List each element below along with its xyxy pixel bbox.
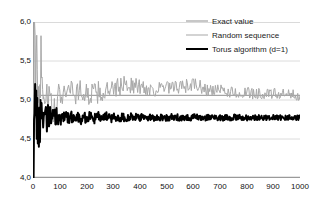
y-axis-labels: 6,0 5,5 5,0 4,5 4,0 <box>0 0 31 204</box>
x-tick-label-1000: 1000 <box>280 182 316 191</box>
legend-label-random-sequence: Random sequence <box>212 31 279 40</box>
legend-item-exact-value: Exact value <box>186 14 310 28</box>
chart-legend: Exact value Random sequence Torus algori… <box>186 14 310 56</box>
legend-line-icon-random-sequence <box>186 29 208 41</box>
legend-line-icon-torus-algorithm <box>186 43 208 55</box>
legend-label-exact-value: Exact value <box>212 17 253 26</box>
x-axis-labels: 0 100 200 300 400 500 600 700 800 900 10… <box>0 182 316 196</box>
y-tick-label-4-0: 4,0 <box>1 174 31 182</box>
legend-line-icon-exact-value <box>186 15 208 27</box>
legend-label-torus-algorithm: Torus algorithm (d=1) <box>212 45 288 54</box>
y-tick-label-4-5: 4,5 <box>1 135 31 143</box>
y-tick-label-5-5: 5,5 <box>1 57 31 65</box>
series-torus-algorithm <box>34 84 300 178</box>
legend-item-random-sequence: Random sequence <box>186 28 310 42</box>
legend-item-torus-algorithm: Torus algorithm (d=1) <box>186 42 310 56</box>
y-tick-label-6-0: 6,0 <box>1 18 31 26</box>
y-tick-label-5-0: 5,0 <box>1 96 31 104</box>
chart-figure: 6,0 5,5 5,0 4,5 4,0 0 <box>0 0 316 204</box>
